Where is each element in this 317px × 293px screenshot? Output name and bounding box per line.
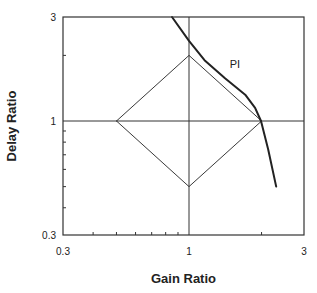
annotations: PI — [230, 58, 240, 70]
y-tick-label: 3 — [50, 12, 56, 23]
reference-lines — [63, 17, 304, 235]
x-axis-title: Gain Ratio — [151, 271, 216, 286]
y-tick-labels: 0.313 — [42, 12, 56, 241]
pi-curve — [172, 17, 276, 187]
series-label-pi: PI — [230, 58, 240, 70]
y-axis-title: Delay Ratio — [4, 91, 19, 162]
x-tick-label: 0.3 — [56, 246, 70, 257]
series-layer — [117, 17, 277, 187]
x-tick-labels: 0.313 — [56, 246, 307, 257]
x-tick-label: 1 — [186, 246, 192, 257]
plot-frame — [63, 17, 304, 235]
y-tick-label: 1 — [50, 116, 56, 127]
y-tick-label: 0.3 — [42, 230, 56, 241]
chart: 0.313 0.313 Gain Ratio Delay Ratio PI — [0, 0, 317, 293]
minor-ticks — [63, 55, 262, 235]
x-tick-label: 3 — [301, 246, 307, 257]
